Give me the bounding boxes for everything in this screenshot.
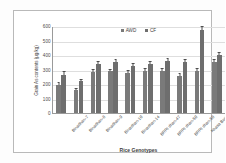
legend-item-cf[interactable]: CF <box>145 28 156 33</box>
error-bar <box>58 83 59 85</box>
x-axis-tick-label: Binadhan-8 <box>88 115 106 133</box>
error-bar-cap <box>149 61 152 62</box>
y-axis-title: Grain As contents (µg/kg) <box>31 27 41 114</box>
error-bar <box>214 60 215 62</box>
bar-group <box>87 27 104 113</box>
error-bar-cap <box>80 79 83 80</box>
error-bar-cap <box>196 68 199 69</box>
legend-item-awd[interactable]: AWD <box>121 28 136 33</box>
chart-screenshot: Grain As contents (µg/kg) 01002003004005… <box>0 0 225 163</box>
bar-cf <box>200 30 205 113</box>
bar-slot <box>56 27 61 113</box>
bar-awd <box>91 72 96 113</box>
x-axis-title: Rice Genotypes <box>52 147 226 153</box>
bar-slot <box>143 27 148 113</box>
x-axis-tick-label: Binadhan-9 <box>106 115 124 133</box>
bar-slot <box>200 27 205 113</box>
bar-cf <box>96 64 101 113</box>
error-bar <box>167 59 168 61</box>
error-bar-cap <box>161 68 164 69</box>
error-bar-cap <box>97 61 100 62</box>
error-bar <box>162 69 163 71</box>
bar-slot <box>212 27 217 113</box>
bar-slot <box>148 27 153 113</box>
error-bar-cap <box>92 69 95 70</box>
error-bar-cap <box>132 63 135 64</box>
y-axis-tick-label: 100 <box>43 97 51 102</box>
y-axis-tick-label: 200 <box>43 83 51 88</box>
error-bar <box>184 60 185 62</box>
bar-slot <box>96 27 101 113</box>
bar-cf <box>165 61 170 113</box>
error-bar <box>127 71 128 73</box>
bar-slot <box>125 27 130 113</box>
bar-slot <box>160 27 165 113</box>
bar-slot <box>183 27 188 113</box>
error-bar-cap <box>166 58 169 59</box>
error-bar-cap <box>126 70 129 71</box>
bar-awd <box>125 73 130 113</box>
bar-groups <box>53 27 226 113</box>
error-bar <box>145 69 146 71</box>
bar-slot <box>74 27 79 113</box>
legend-label: AWD <box>126 28 137 33</box>
bar-awd <box>108 71 113 113</box>
bar-slot <box>177 27 182 113</box>
legend-swatch-icon <box>145 29 148 32</box>
error-bar-cap <box>218 52 221 53</box>
bar-cf <box>131 66 136 113</box>
error-bar-cap <box>114 59 117 60</box>
bar-cf <box>148 64 153 113</box>
error-bar-cap <box>213 59 216 60</box>
bar-awd <box>212 62 217 113</box>
legend-label: CF <box>150 28 156 33</box>
error-bar <box>196 69 197 71</box>
error-bar <box>75 89 76 91</box>
error-bar <box>132 64 133 66</box>
bar-group <box>70 27 87 113</box>
error-bar <box>150 62 151 64</box>
bar-group <box>191 27 208 113</box>
error-bar-cap <box>178 73 181 74</box>
y-axis-tick-label: 500 <box>43 39 51 44</box>
bar-awd <box>74 90 79 113</box>
bar-slot <box>91 27 96 113</box>
plot-area: 0100200300400500600 <box>52 27 226 114</box>
y-axis-tick-label: 0 <box>48 112 51 117</box>
x-axis-tick-label: Binadhan-14 <box>141 115 161 135</box>
error-bar <box>179 74 180 76</box>
bar-slot <box>113 27 118 113</box>
bar-slot <box>79 27 84 113</box>
bar-slot <box>131 27 136 113</box>
bar-slot <box>217 27 222 113</box>
bar-group <box>104 27 121 113</box>
bar-cf <box>61 75 66 113</box>
error-bar <box>93 70 94 72</box>
y-axis-tick-label: 600 <box>43 25 51 30</box>
x-axis-tick-label: Binadhan-7 <box>71 115 89 133</box>
y-axis-tick-label: 400 <box>43 54 51 59</box>
bar-group <box>208 27 225 113</box>
bar-awd <box>177 76 182 113</box>
error-bar-cap <box>74 88 77 89</box>
bar-cf <box>113 62 118 113</box>
bar-awd <box>195 71 200 113</box>
error-bar <box>219 53 220 55</box>
error-bar-cap <box>57 82 60 83</box>
y-axis-tick-label: 300 <box>43 68 51 73</box>
bar-cf <box>183 62 188 113</box>
error-bar <box>81 80 82 82</box>
error-bar <box>110 70 111 72</box>
bar-awd <box>160 71 165 113</box>
error-bar <box>63 72 64 74</box>
bar-cf <box>217 55 222 113</box>
legend-swatch-icon <box>121 29 124 32</box>
bar-slot <box>61 27 66 113</box>
bar-awd <box>56 85 61 113</box>
bar-group <box>174 27 191 113</box>
error-bar-cap <box>144 68 147 69</box>
bar-slot <box>165 27 170 113</box>
chart-frame: Grain As contents (µg/kg) 01002003004005… <box>13 10 212 153</box>
bar-slot <box>108 27 113 113</box>
error-bar-cap <box>183 59 186 60</box>
